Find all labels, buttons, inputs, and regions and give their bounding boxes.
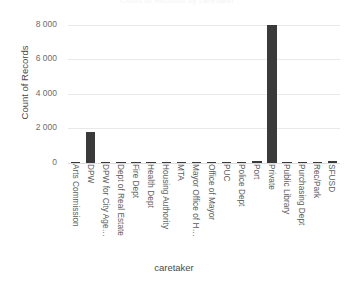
bar bbox=[313, 162, 322, 164]
bars bbox=[68, 18, 340, 163]
x-tick: Private bbox=[265, 164, 279, 256]
x-tick-label: Arts Commission bbox=[71, 164, 79, 227]
bar bbox=[192, 162, 201, 164]
bar bbox=[116, 162, 125, 164]
bar bbox=[237, 162, 246, 164]
x-tick-label: Health Dept bbox=[147, 164, 155, 208]
x-tick-label: MTA bbox=[177, 164, 185, 181]
bar bbox=[328, 161, 337, 163]
cropped-chart-title: Count of Records by caretaker bbox=[0, 0, 348, 11]
x-tick: Office of Mayor bbox=[205, 164, 219, 256]
bar bbox=[86, 132, 95, 163]
bar bbox=[146, 162, 155, 164]
x-tick-label: Rec/Park bbox=[313, 164, 321, 198]
x-tick: DPW bbox=[84, 164, 98, 256]
x-tick: SFUSD bbox=[325, 164, 339, 256]
x-tick: Port bbox=[250, 164, 264, 256]
y-tick-label: 8 000 bbox=[0, 19, 57, 29]
x-tick-label: Fire Dept bbox=[132, 164, 140, 198]
x-tick-label: Purchasing Dept bbox=[298, 164, 306, 225]
x-tick: PUC bbox=[220, 164, 234, 256]
x-tick: Public Library bbox=[280, 164, 294, 256]
x-tick: DPW for City Age… bbox=[99, 164, 113, 256]
x-tick-label: Mayor Office of H… bbox=[192, 164, 200, 237]
bar bbox=[252, 161, 261, 163]
x-tick-label: SFUSD bbox=[328, 164, 336, 192]
x-tick: Purchasing Dept bbox=[295, 164, 309, 256]
bar bbox=[162, 162, 171, 164]
bar bbox=[222, 162, 231, 164]
x-tick: Dept of Real Estate bbox=[114, 164, 128, 256]
chart-title-text: Count of Records by caretaker bbox=[120, 0, 234, 5]
x-tick-label: Housing Authority bbox=[162, 164, 170, 229]
bar bbox=[207, 162, 216, 164]
bar bbox=[177, 162, 186, 164]
x-tick-label: Private bbox=[268, 164, 276, 190]
bar bbox=[131, 162, 140, 164]
x-tick-label: PUC bbox=[223, 164, 231, 182]
bar bbox=[101, 162, 110, 164]
x-tick: MTA bbox=[174, 164, 188, 256]
x-tick-label: Port bbox=[253, 164, 261, 179]
y-tick-label: 2 000 bbox=[0, 122, 57, 132]
x-tick: Housing Authority bbox=[159, 164, 173, 256]
bar bbox=[298, 162, 307, 164]
x-tick: Arts Commission bbox=[69, 164, 83, 256]
x-tick-labels: Arts CommissionDPWDPW for City Age…Dept … bbox=[68, 164, 340, 256]
x-tick-label: DPW bbox=[87, 164, 95, 183]
y-tick-label: 6 000 bbox=[0, 53, 57, 63]
plot-area: 02 0004 0006 0008 000 bbox=[68, 18, 340, 163]
bar bbox=[267, 25, 276, 163]
bar bbox=[282, 162, 291, 164]
x-axis-title: caretaker bbox=[0, 262, 348, 273]
y-axis-title: Count of Records bbox=[19, 28, 30, 138]
x-tick: Rec/Park bbox=[310, 164, 324, 256]
y-tick-label: 0 bbox=[0, 157, 57, 167]
x-tick: Mayor Office of H… bbox=[189, 164, 203, 256]
x-tick-label: Public Library bbox=[283, 164, 291, 214]
x-tick: Police Dept bbox=[235, 164, 249, 256]
x-tick-label: Office of Mayor bbox=[207, 164, 215, 220]
x-tick-label: Police Dept bbox=[238, 164, 246, 206]
x-tick: Health Dept bbox=[144, 164, 158, 256]
x-tick: Fire Dept bbox=[129, 164, 143, 256]
x-tick-label: Dept of Real Estate bbox=[117, 164, 125, 236]
x-tick-label: DPW for City Age… bbox=[102, 164, 110, 237]
y-tick-label: 4 000 bbox=[0, 88, 57, 98]
bar bbox=[71, 162, 80, 164]
bar-chart-figure: Count of Records by caretaker Count of R… bbox=[0, 0, 348, 286]
